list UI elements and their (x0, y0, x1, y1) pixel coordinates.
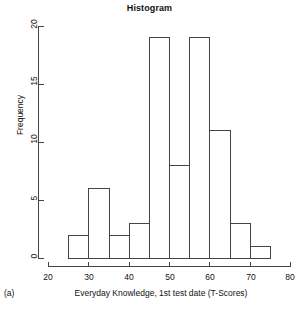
x-axis (49, 262, 291, 267)
histogram-bar (190, 38, 210, 259)
histogram-bar (149, 38, 169, 259)
plot-area (0, 0, 299, 311)
histogram-figure: Histogram Frequency Everyday Knowledge, … (0, 0, 299, 311)
histogram-bar (89, 189, 109, 259)
histogram-bar (109, 235, 129, 258)
y-axis (39, 26, 44, 259)
histogram-bar (250, 247, 270, 259)
histogram-bar (210, 131, 230, 259)
histogram-bar (230, 224, 250, 259)
histogram-bar (129, 224, 149, 259)
histogram-bar (170, 166, 190, 259)
histogram-bar (69, 235, 89, 258)
histogram-bars (69, 38, 271, 259)
